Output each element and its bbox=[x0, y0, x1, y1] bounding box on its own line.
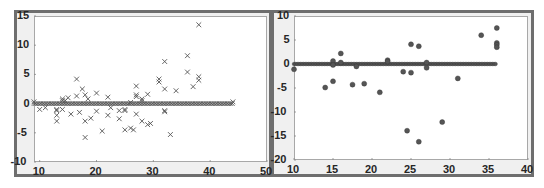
left-chart-markers bbox=[32, 16, 267, 162]
right-chart-markers bbox=[292, 16, 529, 160]
scatter-plots bbox=[0, 0, 544, 188]
